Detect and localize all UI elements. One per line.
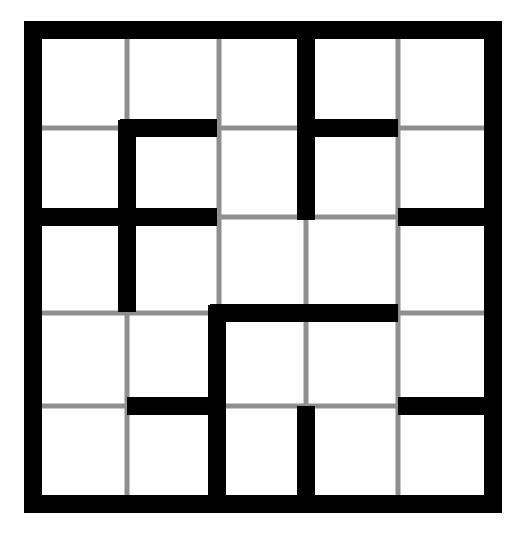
cell-r0-c2[interactable]	[219, 39, 306, 128]
cell-r2-c3[interactable]	[306, 217, 398, 313]
cell-r1-c4[interactable]	[398, 128, 484, 217]
cell-r3-c3[interactable]	[306, 313, 398, 406]
cell-r1-c0[interactable]	[42, 128, 127, 217]
cell-r3-c4[interactable]	[398, 313, 484, 406]
cell-r0-c1[interactable]	[127, 39, 219, 128]
cell-r3-c2[interactable]	[219, 313, 306, 406]
cell-r0-c3[interactable]	[306, 39, 398, 128]
cell-r2-c0[interactable]	[42, 217, 127, 313]
cell-r1-c2[interactable]	[219, 128, 306, 217]
cell-r4-c3[interactable]	[306, 406, 398, 495]
cell-r4-c1[interactable]	[127, 406, 219, 495]
cell-r4-c0[interactable]	[42, 406, 127, 495]
cell-r3-c0[interactable]	[42, 313, 127, 406]
cell-r1-c3[interactable]	[306, 128, 398, 217]
cells	[42, 39, 484, 495]
cell-r2-c4[interactable]	[398, 217, 484, 313]
cell-r2-c1[interactable]	[127, 217, 219, 313]
cell-r0-c0[interactable]	[42, 39, 127, 128]
grid-puzzle	[0, 0, 525, 535]
cell-r4-c2[interactable]	[219, 406, 306, 495]
cell-r4-c4[interactable]	[398, 406, 484, 495]
cell-r0-c4[interactable]	[398, 39, 484, 128]
cell-r3-c1[interactable]	[127, 313, 219, 406]
cell-r1-c1[interactable]	[127, 128, 219, 217]
cell-r2-c2[interactable]	[219, 217, 306, 313]
